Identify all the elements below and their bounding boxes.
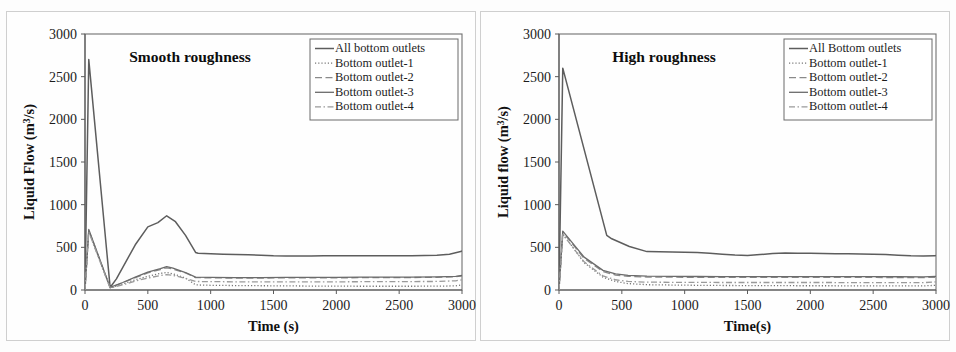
y-tick-label: 3000	[523, 27, 551, 42]
x-tick-label: 1500	[260, 298, 288, 313]
y-tick-label: 1500	[49, 155, 77, 170]
y-tick-label: 2500	[49, 70, 77, 85]
y-tick-label: 2000	[523, 112, 551, 127]
x-tick-label: 0	[82, 298, 89, 313]
x-tick-label: 3000	[448, 298, 476, 313]
x-tick-label: 500	[611, 298, 632, 313]
x-axis-title: Time(s)	[724, 318, 771, 335]
y-tick-label: 0	[544, 283, 551, 298]
y-axis-title-group: Liquid flow (m3/s)	[495, 106, 512, 218]
legend-label-1: All bottom outlets	[335, 41, 425, 55]
y-tick-label: 2000	[49, 112, 77, 127]
y-tick-label: 1000	[49, 198, 77, 213]
legend-label-4: Bottom outlet-3	[335, 85, 414, 99]
x-axis-title: Time (s)	[248, 318, 299, 335]
chart-panel-high-roughness: 0500100015002000250030000500100015002000…	[480, 11, 950, 341]
legend-label-4: Bottom outlet-3	[809, 85, 888, 99]
x-tick-label: 500	[137, 298, 158, 313]
y-tick-label: 1500	[523, 155, 551, 170]
x-tick-label: 1500	[734, 298, 762, 313]
series-line-5	[559, 235, 936, 290]
x-tick-label: 2500	[385, 298, 413, 313]
x-tick-label: 2000	[796, 298, 824, 313]
x-tick-label: 0	[556, 298, 563, 313]
y-tick-label: 1000	[523, 198, 551, 213]
y-tick-label: 2500	[523, 70, 551, 85]
y-tick-label: 3000	[49, 27, 77, 42]
y-axis-title: Liquid Flow (m3/s)	[21, 104, 38, 220]
chart-panel-smooth-roughness: 0500100015002000250030000500100015002000…	[6, 11, 476, 341]
legend-label-1: All Bottom outlets	[809, 41, 901, 55]
series-line-5	[85, 232, 462, 290]
y-axis-title-group: Liquid Flow (m3/s)	[21, 104, 38, 220]
panel-title: Smooth roughness	[129, 48, 251, 65]
figure-container: 0500100015002000250030000500100015002000…	[0, 0, 956, 352]
y-axis-title: Liquid flow (m3/s)	[495, 106, 512, 218]
legend-label-3: Bottom outlet-2	[809, 70, 888, 84]
x-tick-label: 1000	[197, 298, 225, 313]
chart-svg-high-roughness: 0500100015002000250030000500100015002000…	[481, 12, 951, 342]
series-line-4	[85, 229, 462, 290]
x-tick-label: 2500	[859, 298, 887, 313]
x-tick-label: 3000	[922, 298, 950, 313]
chart-svg-smooth-roughness: 0500100015002000250030000500100015002000…	[7, 12, 477, 342]
legend-label-2: Bottom outlet-1	[809, 56, 888, 70]
y-tick-label: 500	[530, 240, 551, 255]
series-line-2	[559, 234, 936, 290]
y-tick-label: 0	[70, 283, 77, 298]
x-tick-label: 1000	[671, 298, 699, 313]
y-tick-label: 500	[56, 240, 77, 255]
legend-label-3: Bottom outlet-2	[335, 70, 414, 84]
x-tick-label: 2000	[322, 298, 350, 313]
legend-label-2: Bottom outlet-1	[335, 56, 414, 70]
legend-label-5: Bottom outlet-4	[809, 99, 888, 113]
panel-title: High roughness	[612, 48, 716, 65]
legend-label-5: Bottom outlet-4	[335, 99, 414, 113]
